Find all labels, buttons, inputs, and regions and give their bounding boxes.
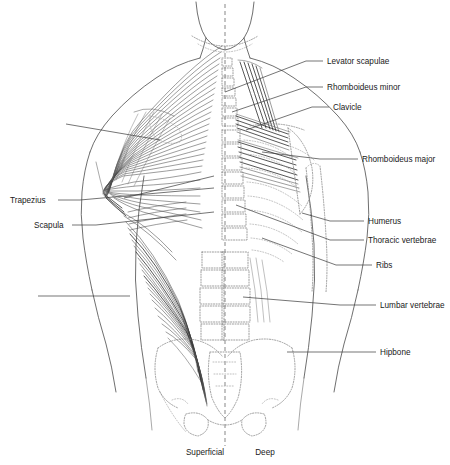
label-rhomboideus-minor: Rhomboideus minor [327, 83, 401, 92]
thoracic-vertebrae-bones [222, 130, 247, 240]
label-rhomboideus-major: Rhomboideus major [362, 155, 436, 164]
deep-muscle-layer [200, 58, 327, 340]
label-levator-scapulae: Levator scapulae [327, 57, 390, 66]
superficial-muscle-layer [96, 46, 222, 432]
label-texts: Levator scapulae Rhomboideus minor Clavi… [10, 57, 445, 357]
rhomboideus-major-muscle [238, 140, 300, 192]
label-scapula: Scapula [34, 221, 64, 230]
trapezius-lower-fibers [105, 172, 202, 228]
leader-thoracic-vertebrae [236, 205, 364, 240]
pelvis-bones [155, 339, 295, 436]
anatomy-figure: Levator scapulae Rhomboideus minor Clavi… [0, 0, 450, 465]
label-humerus: Humerus [368, 217, 401, 226]
label-thoracic-vertebrae: Thoracic vertebrae [368, 236, 437, 245]
humerus-bone [306, 163, 327, 292]
deltoid-fibers [112, 109, 182, 186]
erector-spinae-fibers [250, 258, 270, 322]
leader-lines [38, 61, 376, 352]
anatomy-illustration: Levator scapulae Rhomboideus minor Clavi… [0, 0, 450, 465]
trapezius-upper-fibers [105, 46, 222, 196]
leader-ribs [262, 238, 372, 265]
caption-superficial: Superficial [186, 448, 224, 457]
caption-deep: Deep [255, 448, 275, 457]
label-clavicle: Clavicle [333, 103, 362, 112]
label-hipbone: Hipbone [380, 348, 411, 357]
leader-rhomboideus-major [262, 152, 358, 159]
label-lumbar-vertebrae: Lumbar vertebrae [380, 301, 445, 310]
bottom-captions: Superficial Deep [186, 448, 275, 457]
label-trapezius: Trapezius [10, 196, 46, 205]
leader-scapula [72, 212, 214, 225]
label-ribs: Ribs [376, 261, 392, 270]
latissimus-dorsi-fibers [122, 212, 207, 406]
cervical-vertebrae-dotted [222, 58, 238, 126]
